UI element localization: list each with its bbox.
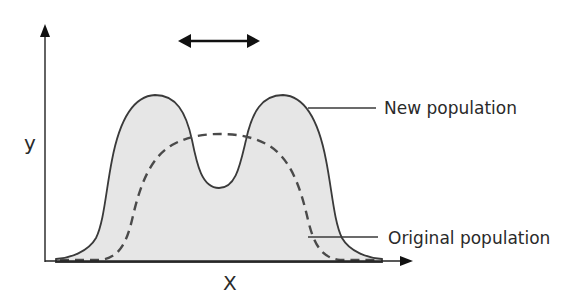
x-axis-arrowhead-icon [400,256,413,266]
original-population-label: Original population [388,228,550,248]
y-axis-label: y [24,131,36,155]
double-headed-arrow-icon [178,34,260,48]
y-axis-arrowhead-icon [40,24,50,37]
population-distribution-diagram: New population Original population y X [0,0,588,298]
new-population-label: New population [384,98,517,118]
x-axis-label: X [223,271,237,295]
